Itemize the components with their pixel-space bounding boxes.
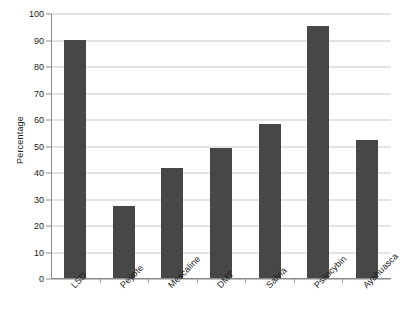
bar-chart-figure: Percentage 0102030405060708090100 LSDPey… xyxy=(0,0,403,334)
plot-area xyxy=(51,14,391,279)
y-axis-tick-label: 30 xyxy=(34,195,44,205)
x-axis-tick-labels: LSDPeyoteMescalineDMTSalviaPsilocybinAya… xyxy=(51,283,391,334)
y-axis-tick-label: 90 xyxy=(34,36,44,46)
y-axis-tick-label: 80 xyxy=(34,62,44,72)
y-axis-tick-label: 20 xyxy=(34,221,44,231)
y-axis-tick-label: 100 xyxy=(29,9,44,19)
bar xyxy=(161,168,183,278)
y-axis-tick-label: 60 xyxy=(34,115,44,125)
bars-layer xyxy=(51,14,391,279)
bar xyxy=(307,26,329,278)
bar xyxy=(64,40,86,279)
bar xyxy=(356,140,378,278)
y-axis-tick-label: 0 xyxy=(39,274,44,284)
bar xyxy=(210,148,232,278)
y-axis-tick-label: 70 xyxy=(34,89,44,99)
y-axis-tick-labels: 0102030405060708090100 xyxy=(22,14,44,279)
bar xyxy=(259,124,281,278)
y-axis-tick-label: 40 xyxy=(34,168,44,178)
y-axis-tick-label: 50 xyxy=(34,142,44,152)
y-axis-tick-label: 10 xyxy=(34,248,44,258)
bar xyxy=(113,206,135,278)
